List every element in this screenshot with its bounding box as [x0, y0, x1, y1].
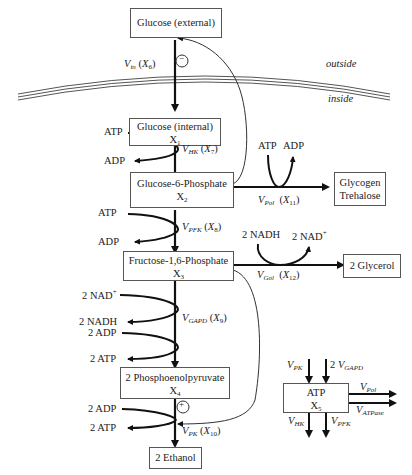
pol-adp-out: ADP — [283, 140, 304, 151]
charge: + — [323, 229, 327, 237]
node-label: Fructose-1,6-Phosphate — [124, 254, 233, 267]
rate-sub: PFK — [337, 420, 350, 428]
node-label: 2 Phosphoenolpyruvate — [121, 371, 229, 384]
hk-adp-out: ADP — [104, 155, 125, 166]
reaction-vgol: VGol (X12) — [257, 269, 300, 282]
node-label: Glucose (internal) — [130, 120, 220, 133]
atp-flux-vhk: VHK — [288, 415, 304, 428]
node-label: Glucose (external) — [137, 17, 215, 28]
node-glycogen-trehalose: Glycogen Trehalose — [334, 172, 386, 206]
rate-sub: in — [130, 63, 135, 71]
node-label: 2 Ethanol — [155, 452, 196, 463]
param-sub: 6 — [148, 63, 152, 71]
reaction-vpk: VPK (X10) — [182, 425, 220, 438]
node-glucose-internal: Glucose (internal) X1 — [129, 118, 221, 146]
atp-flux-vpol: VPol — [360, 381, 376, 394]
diagram-arrows — [0, 0, 412, 475]
node-var-sub: 4 — [177, 390, 181, 398]
gol-nadh-in: 2 NADH — [242, 229, 280, 240]
gapd-nad-in: 2 NAD+ — [82, 288, 117, 301]
rate-sub: ATPase — [362, 409, 384, 417]
node-label: Glucose-6-Phosphate — [131, 177, 233, 190]
param-sub: 10 — [210, 430, 217, 438]
atp-flux-vpfk: VPFK — [331, 415, 351, 428]
atp-flux-vpk: VPK — [287, 359, 302, 372]
node-var: X — [169, 134, 177, 145]
rate-sub: PFK — [188, 226, 201, 234]
node-phosphoenolpyruvate: 2 Phosphoenolpyruvate X4 — [120, 367, 230, 399]
gapd-atp-out: 2 ATP — [90, 353, 116, 364]
inside-label: inside — [328, 93, 353, 104]
atp-flux-vatpase: VATPase — [356, 404, 384, 417]
pk-atp-out: 2 ATP — [90, 422, 116, 433]
charge: + — [113, 288, 117, 296]
node-glucose-6-phosphate: Glucose-6-Phosphate X2 — [130, 172, 234, 208]
node-glucose-external: Glucose (external) — [130, 8, 222, 38]
param-sub: 11 — [289, 199, 296, 207]
reaction-vgapd: VGAPD (X9) — [182, 312, 227, 325]
glycolysis-pathway-diagram: − + outside inside Glucose (external) Gl… — [0, 0, 412, 475]
outside-label: outside — [326, 58, 356, 69]
node-glycerol: 2 Glycerol — [343, 254, 401, 278]
node-atp-pool: ATP X5 — [283, 383, 349, 413]
reaction-vpfk: VPFK (X8) — [182, 221, 221, 234]
node-var: X — [169, 385, 177, 396]
param-sub: 7 — [211, 148, 215, 156]
node-ethanol: 2 Ethanol — [149, 447, 202, 469]
pk-adp-in: 2 ADP — [88, 403, 116, 414]
pol-atp-in: ATP — [258, 140, 277, 151]
node-var-sub: 1 — [177, 139, 181, 147]
node-var-sub: 2 — [184, 196, 188, 204]
rate-sub: PK — [188, 430, 197, 438]
rate-sub: HK — [188, 148, 198, 156]
cofactor-text: 2 NAD — [82, 290, 113, 301]
node-var-sub: 3 — [181, 273, 185, 281]
gapd-adp-in: 2 ADP — [88, 327, 116, 338]
rate-sub: GAPD — [344, 364, 363, 372]
pfk-adp-out: ADP — [98, 236, 119, 247]
rate-sub: HK — [294, 420, 304, 428]
param-sub: 8 — [214, 226, 218, 234]
node-label: Glycogen — [335, 176, 385, 189]
reaction-vhk: VHK (X7) — [182, 143, 218, 156]
node-fructose-1-6-phosphate: Fructose-1,6-Phosphate X3 — [123, 251, 234, 281]
param-sub: 9 — [220, 317, 224, 325]
rate-sub: Pol — [264, 199, 274, 207]
atp-flux-vgapd: 2 VGAPD — [330, 359, 363, 372]
node-label: 2 Glycerol — [350, 260, 395, 271]
reaction-vpol: VPol (X11) — [258, 194, 300, 207]
node-var: X — [173, 268, 181, 279]
param-sub: 12 — [289, 274, 296, 282]
node-label: ATP — [284, 386, 348, 399]
reaction-vin: Vin (X6) — [124, 58, 155, 71]
coefficient: 2 — [330, 359, 338, 370]
gol-nad-out: 2 NAD+ — [292, 229, 327, 242]
inhibition-symbol: − — [179, 53, 184, 63]
rate-sub: Pol — [366, 386, 376, 394]
gapd-nadh-out: 2 NADH — [79, 316, 117, 327]
pfk-atp-in: ATP — [98, 207, 117, 218]
rate-sub: GAPD — [188, 317, 207, 325]
rate-sub: PK — [293, 364, 302, 372]
node-var: X — [310, 400, 318, 411]
node-label: Trehalose — [335, 189, 385, 202]
hk-atp-in: ATP — [104, 126, 123, 137]
rate-sub: Gol — [263, 274, 274, 282]
node-var: X — [176, 191, 184, 202]
node-var-sub: 5 — [318, 405, 322, 413]
cofactor-text: 2 NAD — [292, 231, 323, 242]
